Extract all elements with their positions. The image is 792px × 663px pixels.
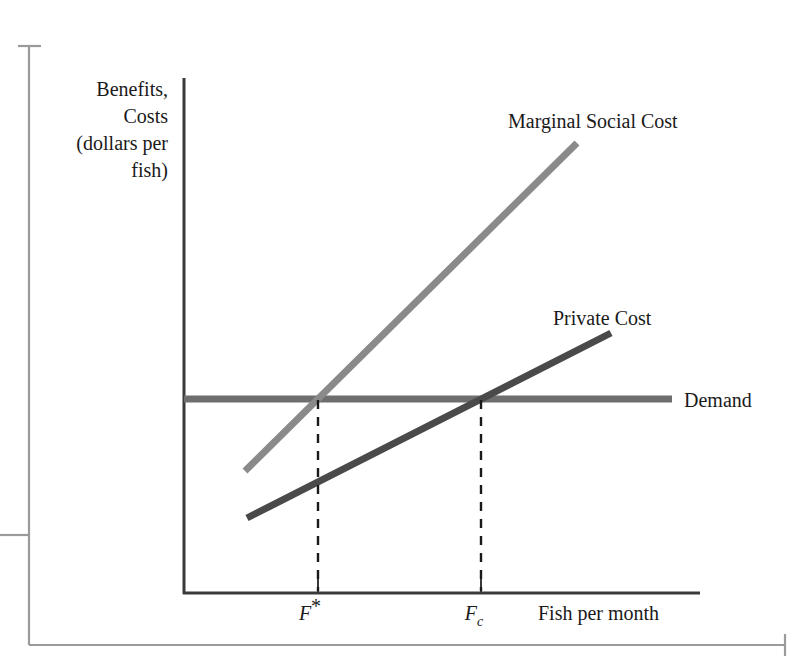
marginal-social-cost-curve <box>245 143 577 471</box>
chart-axes <box>183 78 700 594</box>
private-cost-curve <box>247 333 611 518</box>
y-axis-label-line-2: Costs <box>124 105 169 127</box>
y-axis-label-line-1: Benefits, <box>96 78 168 100</box>
y-axis-label-line-4: fish) <box>131 159 168 182</box>
tick-label-f-c-subscript: c <box>477 614 484 629</box>
tick-label-f-c: Fc <box>464 602 484 629</box>
private-cost-label: Private Cost <box>553 307 652 329</box>
x-axis-title: Fish per month <box>538 602 659 625</box>
tick-label-f-star-base: F <box>298 602 312 624</box>
marginal-social-cost-label: Marginal Social Cost <box>508 110 678 133</box>
demand-label: Demand <box>684 389 752 411</box>
svg-text:Fc: Fc <box>464 602 484 629</box>
tick-label-f-c-base: F <box>464 602 478 624</box>
y-axis-label: Benefits, Costs (dollars per fish) <box>76 78 168 182</box>
tick-label-f-star: F* <box>298 595 321 624</box>
y-axis-label-line-3: (dollars per <box>76 132 168 155</box>
tick-label-f-star-superscript: * <box>311 595 321 617</box>
x-axis-ticks <box>318 576 481 592</box>
figure-root: Benefits, Costs (dollars per fish) Margi… <box>0 0 792 663</box>
economics-externality-chart: Benefits, Costs (dollars per fish) Margi… <box>0 0 792 663</box>
dashed-guides <box>318 400 481 591</box>
svg-text:F*: F* <box>298 595 321 624</box>
